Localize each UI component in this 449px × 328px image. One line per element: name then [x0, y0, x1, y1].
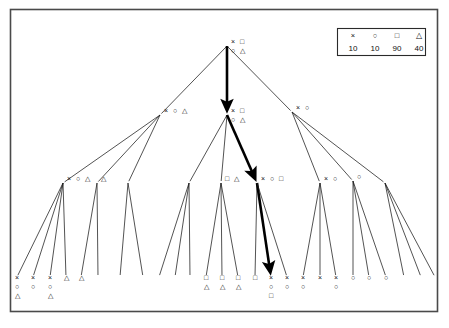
tree-edge: [385, 183, 404, 275]
tree-edge: [257, 183, 286, 275]
tree-node: □: [253, 274, 258, 281]
node-symbol: □: [269, 292, 274, 299]
tree-node: △: [64, 274, 70, 281]
node-symbol: ×: [15, 274, 19, 281]
node-symbol: △: [220, 283, 226, 290]
tree-node: ×○: [301, 274, 305, 290]
node-symbol: △: [234, 175, 240, 182]
node-symbol: △: [15, 292, 21, 299]
tree-edge: [175, 183, 189, 275]
tree-node: ×○: [285, 274, 289, 290]
tree-node: △: [79, 274, 85, 281]
node-symbol: ×: [31, 274, 35, 281]
node-symbol: □: [225, 175, 230, 182]
legend-cross-symbol: ×: [351, 31, 355, 40]
tree-node: △: [101, 175, 107, 182]
tree-node: ○: [384, 274, 388, 281]
node-symbol: ×: [231, 107, 235, 114]
tree-node: ○: [357, 173, 361, 180]
tree-node: ○: [367, 274, 371, 281]
node-symbol: ×: [296, 104, 300, 111]
tree-edge: [221, 183, 238, 275]
tree-edge-highlighted: [227, 115, 253, 175]
node-symbol: □: [220, 274, 225, 281]
node-symbol: ○: [15, 283, 19, 290]
tree-edge: [353, 181, 385, 275]
node-symbol: ○: [285, 283, 289, 290]
node-symbol: ×: [231, 38, 235, 45]
tree-nodes: ×□○△×○△×□○△×○×○△△□△×○□×○○×○△×○×○△△△□△□△□…: [15, 38, 389, 299]
tree-edges: [18, 46, 434, 275]
node-symbol: △: [240, 116, 246, 123]
node-symbol: ×: [164, 107, 168, 114]
tree-node: ×○: [31, 274, 35, 290]
node-symbol: ×: [285, 274, 289, 281]
legend-square-symbol: □: [395, 31, 400, 40]
tree-edge: [385, 183, 420, 275]
node-symbol: ○: [48, 283, 52, 290]
legend-value: 90: [393, 44, 402, 53]
node-symbol: ×: [48, 274, 52, 281]
tree-edge: [65, 115, 160, 182]
legend-value: 10: [349, 44, 358, 53]
tree-node: ○: [351, 274, 355, 281]
tree-edge: [227, 46, 291, 111]
tree-edge: [97, 183, 98, 275]
node-symbol: □: [240, 107, 245, 114]
tree-edge: [221, 183, 222, 275]
tree-edge: [353, 181, 369, 275]
tree-node: ×○△: [164, 107, 188, 114]
tree-edge: [81, 183, 97, 275]
node-symbol: △: [64, 274, 70, 281]
node-symbol: □: [204, 274, 209, 281]
tree-edge: [292, 112, 352, 180]
node-symbol: □: [253, 274, 258, 281]
tree-node: ×○△: [15, 274, 21, 299]
legend-circle-symbol: ○: [373, 31, 378, 40]
node-symbol: ○: [269, 283, 273, 290]
node-symbol: ○: [270, 175, 274, 182]
tree-diagram-figure: ×□○△×○△×□○△×○×○△△□△×○□×○○×○△×○×○△△△□△□△□…: [0, 0, 449, 328]
tree-node: □△: [204, 274, 210, 290]
tree-node: ×○: [334, 274, 338, 290]
tree-edge: [129, 115, 160, 181]
node-symbol: ○: [357, 173, 361, 180]
node-symbol: ○: [231, 116, 235, 123]
tree-node: ×: [318, 274, 322, 281]
node-symbol: △: [182, 107, 188, 114]
node-symbol: ○: [173, 107, 177, 114]
tree-edge: [128, 183, 143, 275]
node-symbol: ○: [367, 274, 371, 281]
node-symbol: ○: [334, 283, 338, 290]
tree-node: ×○: [324, 175, 337, 182]
tree-edge: [160, 183, 189, 275]
node-symbol: ×: [261, 175, 265, 182]
node-symbol: ×: [324, 175, 328, 182]
node-symbol: □: [236, 274, 241, 281]
node-symbol: □: [240, 38, 245, 45]
node-symbol: □: [279, 175, 284, 182]
tree-node: ×□○△: [231, 107, 246, 123]
node-symbol: ×: [334, 274, 338, 281]
node-symbol: ×: [67, 175, 71, 182]
node-symbol: △: [85, 175, 91, 182]
tree-edge: [189, 183, 190, 275]
legend-value: 40: [415, 44, 424, 53]
node-symbol: ○: [384, 274, 388, 281]
node-symbol: ×: [318, 274, 322, 281]
node-symbol: △: [48, 292, 54, 299]
node-symbol: ○: [301, 283, 305, 290]
node-symbol: ○: [305, 104, 309, 111]
tree-edge: [120, 183, 128, 275]
tree-node: ×○: [296, 104, 309, 111]
node-symbol: △: [240, 47, 246, 54]
tree-edge: [18, 183, 63, 275]
node-symbol: ○: [231, 47, 235, 54]
tree-edge: [63, 183, 66, 275]
tree-node: ×○△: [48, 274, 54, 299]
tree-edge-highlighted: [257, 183, 270, 268]
tree-node: □△: [225, 175, 240, 182]
tree-edge: [206, 183, 221, 275]
node-symbol: ○: [31, 283, 35, 290]
node-symbol: △: [204, 283, 210, 290]
